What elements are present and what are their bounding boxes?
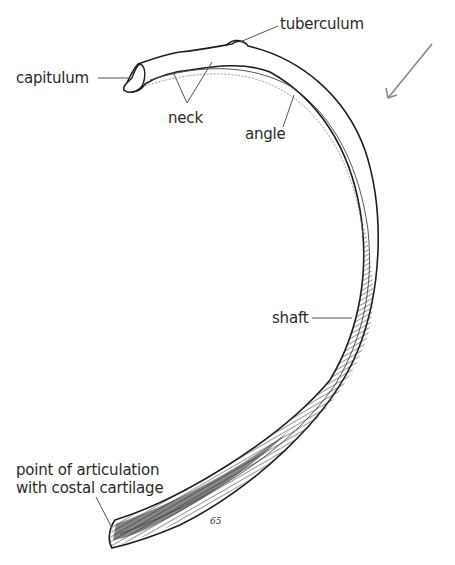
leader-tuberculum xyxy=(240,26,278,42)
label-shaft: shaft xyxy=(272,310,308,327)
label-tuberculum: tuberculum xyxy=(280,16,364,33)
label-angle: angle xyxy=(245,126,286,143)
leader-neck-left xyxy=(173,72,187,103)
rib-shading-lower xyxy=(110,215,373,547)
label-neck: neck xyxy=(168,110,203,127)
label-articulation-line1: point of articulation xyxy=(16,462,159,479)
illustrator-signature: 65 xyxy=(210,516,221,526)
arrow-down-left-icon xyxy=(386,44,432,98)
label-capitulum: capitulum xyxy=(16,70,89,87)
leader-articulation xyxy=(96,497,112,528)
label-articulation-line2: with costal cartilage xyxy=(16,480,163,497)
leader-angle xyxy=(283,95,294,127)
